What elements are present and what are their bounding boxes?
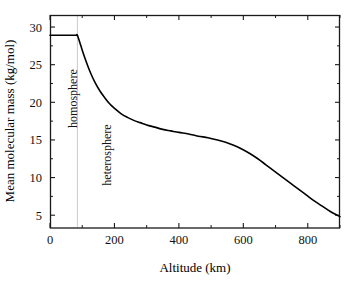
- y-tick-label: 30: [30, 21, 43, 35]
- y-tick-label: 25: [30, 58, 43, 72]
- homosphere-label: homosphere: [66, 69, 80, 128]
- y-tick-label: 5: [36, 209, 42, 223]
- x-tick-label: 200: [105, 233, 124, 247]
- x-tick-label: 0: [47, 233, 53, 247]
- heterosphere-label: heterosphere: [100, 124, 114, 185]
- y-tick-label: 10: [30, 171, 43, 185]
- x-axis-title: Altitude (km): [159, 260, 230, 275]
- x-tick-label: 800: [298, 233, 317, 247]
- y-tick-label: 15: [30, 133, 43, 147]
- mean-molecular-mass-vs-altitude-chart: 0200400600800 51015202530 Altitude (km) …: [0, 0, 353, 282]
- y-axis-title: Mean molecular mass (kg/mol): [2, 40, 17, 203]
- x-tick-label: 600: [234, 233, 253, 247]
- chart-figure: 0200400600800 51015202530 Altitude (km) …: [0, 0, 353, 282]
- y-tick-label: 20: [30, 96, 43, 110]
- x-tick-label: 400: [170, 233, 189, 247]
